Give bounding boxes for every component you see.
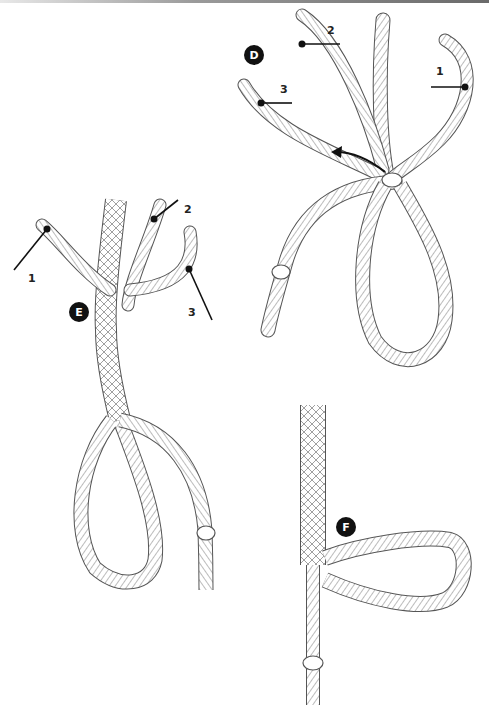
label-e-strand-2: 2 — [184, 203, 192, 216]
label-e-strand-3: 3 — [188, 306, 196, 319]
label-e-strand-1: 1 — [28, 272, 36, 285]
label-d-strand-1: 1 — [436, 65, 444, 78]
step-d-diagram: 2 3 1 D — [244, 15, 469, 360]
knot-illustration: 2 3 1 D — [0, 0, 489, 718]
step-f-diagram: F — [303, 405, 464, 705]
step-d-label: D — [249, 49, 258, 62]
leader-d-3 — [258, 100, 293, 107]
step-d-badge: D — [244, 45, 264, 65]
step-f-badge: F — [336, 517, 356, 537]
step-e-diagram: 1 2 3 E — [14, 200, 215, 590]
step-e-label: E — [75, 306, 83, 319]
label-d-strand-2: 2 — [327, 24, 335, 37]
label-d-strand-3: 3 — [280, 83, 288, 96]
step-f-label: F — [342, 521, 350, 534]
leader-d-1 — [431, 84, 469, 91]
step-e-badge: E — [69, 302, 89, 322]
leader-e-1 — [14, 226, 51, 271]
